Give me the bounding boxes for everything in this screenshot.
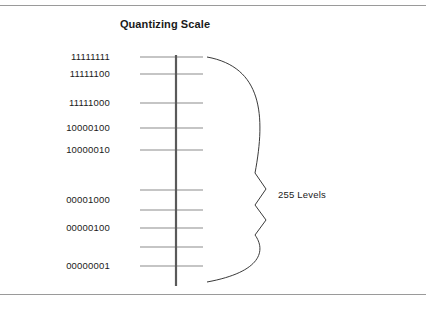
tick-label: 00000100 [24, 222, 110, 233]
tick-label: 10000100 [24, 122, 110, 133]
tick-label: 11111111 [24, 51, 110, 62]
tick-label: 10000010 [24, 144, 110, 155]
tick-label: 11111000 [24, 97, 110, 108]
tick-marks-group [140, 57, 203, 266]
quantizing-scale-figure: Quantizing Scale 11111111111111001111100… [0, 0, 426, 312]
tick-label: 00000001 [24, 260, 110, 271]
brace-annotation-label: 255 Levels [278, 189, 326, 200]
tick-label: 11111100 [24, 68, 110, 79]
tick-label: 00001000 [24, 194, 110, 205]
curly-brace-icon [207, 57, 266, 282]
